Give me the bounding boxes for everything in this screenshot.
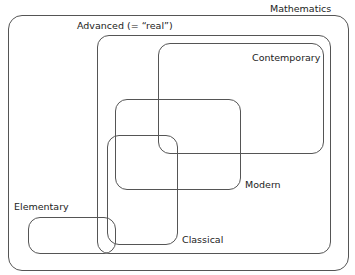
elementary-label: Elementary bbox=[14, 202, 69, 212]
mathematics-label: Mathematics bbox=[270, 4, 331, 14]
contemporary-label: Contemporary bbox=[252, 53, 320, 63]
advanced-label: Advanced (= “real”) bbox=[77, 21, 173, 31]
classical-label: Classical bbox=[182, 235, 223, 245]
elementary-set bbox=[28, 217, 116, 254]
classical-set bbox=[107, 135, 178, 245]
modern-label: Modern bbox=[245, 180, 281, 190]
